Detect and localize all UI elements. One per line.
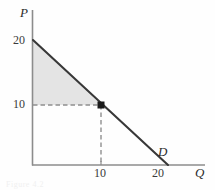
figure-caption: Figure 4.2 (6, 180, 44, 189)
x-axis-label: Q (195, 166, 204, 179)
y-axis-label: P (20, 6, 28, 19)
y-tick-label-20: 20 (13, 34, 25, 46)
demand-curve-figure: P Q 20 10 10 20 D Figure 4.2 (0, 0, 215, 190)
demand-curve-label: D (158, 145, 167, 158)
x-tick-label-10: 10 (94, 167, 106, 179)
y-tick-label-10: 10 (13, 98, 25, 110)
chart-canvas (0, 0, 215, 190)
x-tick-label-20: 20 (152, 167, 164, 179)
equilibrium-point-marker (98, 102, 105, 109)
